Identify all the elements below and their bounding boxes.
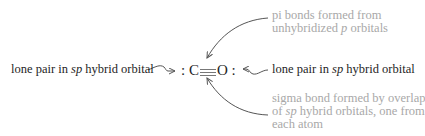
label-line: each atom — [272, 118, 425, 131]
left-lone-pair: : — [181, 62, 185, 79]
label-text: lone pair in — [272, 62, 332, 76]
left-lone-pair-label: lone pair in sp hybrid orbital — [11, 63, 154, 76]
label-text: hybrid orbital — [343, 62, 415, 76]
pi-bond-arrow — [207, 18, 268, 58]
label-italic: sp — [71, 62, 82, 76]
sigma-bond-arrow — [207, 78, 268, 115]
label-text: lone pair in — [11, 62, 71, 76]
right-lone-pair-arrow — [243, 69, 268, 74]
label-line: unhybridized p orbitals — [272, 22, 388, 35]
right-lone-pair: : — [232, 62, 236, 79]
label-text: hybrid orbital — [82, 62, 154, 76]
label-text: unhybridized — [272, 21, 341, 35]
label-text: of — [272, 104, 286, 118]
triple-bond — [200, 65, 216, 79]
label-italic: sp — [286, 104, 297, 118]
carbon-monoxide-structure: : CO : — [181, 62, 236, 79]
carbon-atom: C — [189, 62, 199, 79]
oxygen-atom: O — [217, 62, 228, 79]
label-italic: sp — [332, 62, 343, 76]
sigma-bond-label: sigma bond formed by overlap of sp hybri… — [272, 92, 425, 131]
right-lone-pair-label: lone pair in sp hybrid orbital — [272, 63, 415, 76]
label-text: orbitals — [347, 21, 388, 35]
pi-bonds-label: pi bonds formed from unhybridized p orbi… — [272, 9, 388, 35]
label-text: hybrid orbitals, one from — [297, 104, 425, 118]
